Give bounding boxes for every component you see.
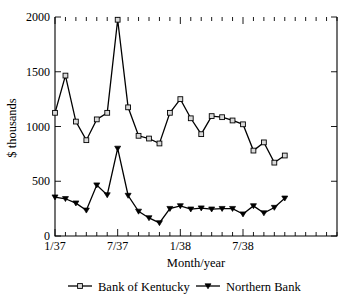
data-point-marker bbox=[73, 119, 78, 124]
data-point-marker bbox=[126, 105, 131, 110]
y-axis-ticks: 0500100015002000 bbox=[26, 10, 337, 243]
data-point-marker bbox=[84, 138, 89, 143]
data-point-marker bbox=[105, 110, 110, 115]
x-axis-title: Month/year bbox=[167, 256, 226, 270]
data-point-marker bbox=[251, 148, 256, 153]
series-line bbox=[55, 20, 285, 163]
x-tick-label: 7/38 bbox=[232, 239, 253, 253]
data-point-marker bbox=[157, 141, 162, 146]
chart-svg: 0500100015002000 1/377/371/387/38 $ thou… bbox=[0, 0, 357, 302]
series-1 bbox=[53, 17, 288, 165]
data-point-marker bbox=[220, 115, 225, 120]
data-point-marker bbox=[63, 73, 68, 78]
data-point-marker bbox=[115, 146, 121, 151]
data-point-marker bbox=[147, 136, 152, 141]
data-point-marker bbox=[230, 118, 235, 123]
legend-label: Bank of Kentucky bbox=[98, 280, 190, 294]
data-point-marker bbox=[94, 117, 99, 122]
y-tick-label: 500 bbox=[32, 174, 50, 188]
legend-label: Northern Bank bbox=[226, 280, 301, 294]
data-point-marker bbox=[240, 212, 246, 217]
data-point-marker bbox=[136, 133, 141, 138]
y-tick-label: 2000 bbox=[26, 10, 50, 24]
data-point-marker bbox=[199, 132, 204, 137]
y-tick-label: 1000 bbox=[26, 120, 50, 134]
data-point-marker bbox=[104, 193, 110, 198]
data-point-marker bbox=[156, 221, 162, 226]
y-axis-title: $ thousands bbox=[5, 98, 19, 158]
x-tick-label: 7/37 bbox=[107, 239, 128, 253]
data-point-marker bbox=[209, 114, 214, 119]
data-point-marker bbox=[282, 153, 287, 158]
data-point-marker bbox=[188, 116, 193, 121]
chart-figure: 0500100015002000 1/377/371/387/38 $ thou… bbox=[0, 0, 357, 302]
legend-sample-marker bbox=[78, 284, 83, 289]
data-point-marker bbox=[272, 160, 277, 165]
chart-legend: Bank of KentuckyNorthern Bank bbox=[68, 280, 301, 294]
x-tick-label: 1/37 bbox=[44, 239, 65, 253]
data-point-marker bbox=[271, 205, 277, 210]
series-layer bbox=[52, 17, 288, 225]
x-tick-label: 1/38 bbox=[170, 239, 191, 253]
data-point-marker bbox=[83, 208, 89, 213]
y-tick-label: 1500 bbox=[26, 65, 50, 79]
data-point-marker bbox=[261, 140, 266, 145]
data-point-marker bbox=[167, 110, 172, 115]
data-point-marker bbox=[178, 97, 183, 102]
data-point-marker bbox=[261, 211, 267, 216]
data-point-marker bbox=[241, 122, 246, 127]
series-2 bbox=[52, 146, 288, 225]
data-point-marker bbox=[115, 17, 120, 22]
data-point-marker bbox=[53, 110, 58, 115]
